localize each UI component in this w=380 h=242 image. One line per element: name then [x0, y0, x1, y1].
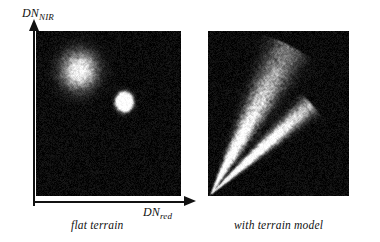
- x-axis-label: DNred: [143, 205, 172, 221]
- figure-container: DNNIR DNred flat terrain with terrain mo…: [0, 0, 380, 242]
- y-axis-label-subscript: NIR: [39, 12, 54, 22]
- scatter-panel-with-terrain-model: [208, 31, 349, 196]
- right-arrow-icon: [184, 196, 196, 206]
- caption-with-terrain-model: with terrain model: [234, 219, 323, 231]
- x-axis-label-main: DN: [143, 205, 160, 219]
- caption-flat-terrain: flat terrain: [71, 219, 124, 231]
- scatter-panel-flat-terrain: [36, 31, 181, 196]
- y-axis-label: DNNIR: [22, 6, 54, 22]
- x-axis-label-subscript: red: [160, 211, 172, 221]
- y-axis-line: [33, 30, 35, 206]
- scatter-canvas-flat-terrain: [36, 31, 181, 196]
- scatter-canvas-with-terrain-model: [208, 31, 349, 196]
- x-axis-line: [33, 201, 188, 203]
- y-axis-label-main: DN: [22, 6, 39, 20]
